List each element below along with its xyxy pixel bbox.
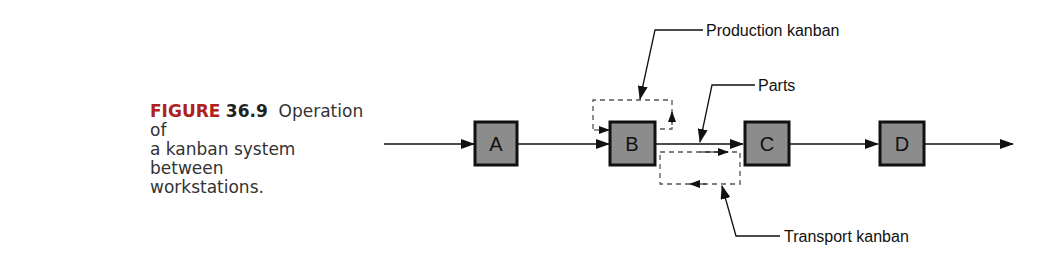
transport-kanban-loop bbox=[660, 152, 740, 184]
kanban-diagram: A B C D Production kanban Parts Transpor… bbox=[0, 0, 1063, 257]
transport-kanban-label: Transport kanban bbox=[784, 228, 909, 245]
station-c-label: C bbox=[760, 133, 774, 155]
station-c: C bbox=[745, 122, 789, 165]
station-a: A bbox=[475, 122, 517, 165]
station-b-label: B bbox=[625, 133, 638, 155]
production-kanban-label: Production kanban bbox=[706, 22, 839, 39]
production-kanban-callout: Production kanban bbox=[640, 22, 839, 99]
parts-label: Parts bbox=[758, 77, 795, 94]
station-d-label: D bbox=[895, 133, 909, 155]
transport-kanban-callout: Transport kanban bbox=[722, 186, 909, 245]
station-b: B bbox=[610, 122, 655, 165]
station-d: D bbox=[880, 122, 924, 165]
station-a-label: A bbox=[489, 133, 503, 155]
